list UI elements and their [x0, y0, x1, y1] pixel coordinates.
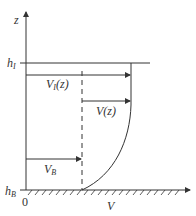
ground-hatching [28, 190, 179, 195]
v-axis-label: V [107, 200, 114, 212]
velocity-profile-diagram: z hI VI(z) V(z) VB hB 0 V [0, 0, 196, 216]
origin-label: 0 [22, 196, 28, 208]
z-axis-label: z [14, 14, 19, 26]
h-i-label: hI [7, 57, 16, 71]
v-b-label: VB [44, 163, 56, 177]
v-i-label: VI(z) [46, 78, 69, 92]
h-b-label: hB [5, 185, 16, 199]
v-z-label: V(z) [96, 105, 116, 117]
